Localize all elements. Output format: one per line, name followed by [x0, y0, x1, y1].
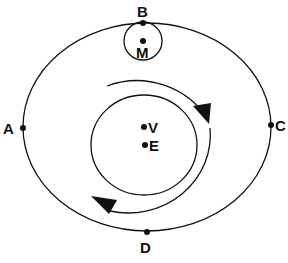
label-m: M — [136, 44, 149, 61]
point-d-dot — [144, 229, 150, 235]
rotation-arrow-upper-head — [193, 103, 211, 124]
rotation-arrow-upper — [107, 81, 208, 120]
label-v: V — [148, 119, 158, 136]
point-v-dot — [141, 124, 147, 130]
label-e: E — [149, 137, 159, 154]
label-d: D — [140, 239, 151, 256]
point-b-dot — [140, 20, 146, 26]
label-c: C — [275, 117, 286, 134]
rotation-arrow-lower — [110, 128, 210, 213]
point-c-dot — [268, 122, 274, 128]
label-a: A — [3, 120, 14, 137]
orbit-diagram: A B C D M V E — [0, 0, 288, 263]
point-e-dot — [142, 142, 148, 148]
label-b: B — [137, 3, 148, 20]
point-a-dot — [20, 125, 26, 131]
